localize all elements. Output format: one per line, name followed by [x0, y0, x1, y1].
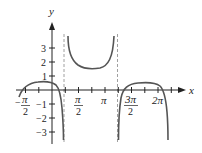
- x-tick-three-half-pi: 3π 2: [124, 93, 138, 117]
- y-axis-arrow-icon: [49, 22, 55, 30]
- y-axis-label: y: [48, 5, 54, 17]
- svg-text:3π: 3π: [124, 93, 137, 105]
- x-axis-arrow-icon: [178, 87, 186, 93]
- y-tick-3: 3: [41, 43, 46, 54]
- x-tick-pi: π: [101, 94, 107, 106]
- svg-text:2: 2: [23, 106, 28, 117]
- y-tick-neg3: −3: [36, 127, 47, 138]
- y-tick-1: 1: [42, 71, 47, 82]
- graph: y x 3 2 1 −1 −2 −3 − π 2 π 2 π 3π 2 2π: [0, 0, 202, 153]
- svg-text:π: π: [22, 93, 28, 105]
- y-tick-neg2: −2: [36, 113, 47, 124]
- x-tick-two-pi: 2π: [152, 94, 164, 106]
- x-tick-neg-half-pi: − π 2: [15, 93, 30, 117]
- svg-text:2: 2: [128, 106, 133, 117]
- curve-middle-branch: [68, 36, 114, 69]
- svg-text:−: −: [15, 97, 21, 108]
- svg-text:π: π: [75, 93, 81, 105]
- curve-right-branch: [119, 82, 169, 140]
- y-tick-2: 2: [41, 57, 46, 68]
- x-axis-label: x: [188, 84, 194, 96]
- x-tick-half-pi: π 2: [74, 93, 83, 117]
- y-tick-neg1: −1: [36, 99, 47, 110]
- svg-text:2: 2: [76, 106, 81, 117]
